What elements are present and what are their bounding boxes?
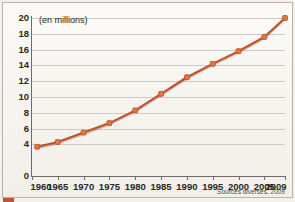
gridline-8: [31, 113, 285, 114]
chart-frame: 2018161412108640 (en millions) 196019651…: [2, 2, 293, 198]
y-axis-line: [31, 16, 32, 177]
y-tick-label-6: 6: [7, 124, 29, 134]
gridline-6: [31, 129, 285, 130]
x-tick-label-1990: 1990: [176, 181, 197, 192]
x-tick-mark-1995: [213, 176, 214, 180]
y-axis-unit-note: (en millions): [39, 15, 88, 25]
x-tick-mark-1965: [58, 176, 59, 180]
x-tick-label-1965: 1965: [47, 181, 68, 192]
page-edge-marker: [3, 198, 14, 202]
x-tick-label-1980: 1980: [125, 181, 146, 192]
y-tick-label-0: 0: [7, 171, 29, 181]
y-tick-label-20: 20: [7, 13, 29, 23]
gridline-4: [31, 144, 285, 145]
plot-area: [31, 18, 285, 176]
chart-screenshot: 2018161412108640 (en millions) 196019651…: [0, 0, 295, 202]
y-tick-label-10: 10: [7, 92, 29, 102]
x-tick-label-1975: 1975: [99, 181, 120, 192]
source-note: Sources diverses, 2009: [217, 188, 285, 195]
y-tick-label-8: 8: [7, 108, 29, 118]
gridline-10: [31, 97, 285, 98]
x-tick-mark-1960: [32, 176, 33, 180]
x-tick-label-1970: 1970: [73, 181, 94, 192]
gridline-12: [31, 81, 285, 82]
x-tick-label-1985: 1985: [151, 181, 172, 192]
x-tick-mark-1970: [84, 176, 85, 180]
x-tick-mark-1975: [109, 176, 110, 180]
x-tick-mark-1990: [187, 176, 188, 180]
gridline-16: [31, 50, 285, 51]
x-tick-mark-2009: [285, 176, 286, 180]
y-tick-label-12: 12: [7, 76, 29, 86]
y-axis-tick-labels: 2018161412108640: [3, 3, 29, 202]
x-axis-line: [31, 176, 286, 177]
y-tick-label-14: 14: [7, 60, 29, 70]
x-tick-mark-2000: [239, 176, 240, 180]
gridline-18: [31, 34, 285, 35]
x-tick-mark-1985: [161, 176, 162, 180]
x-tick-mark-2005: [264, 176, 265, 180]
y-tick-label-4: 4: [7, 139, 29, 149]
y-tick-label-16: 16: [7, 45, 29, 55]
gridline-14: [31, 65, 285, 66]
y-tick-label-18: 18: [7, 29, 29, 39]
x-tick-mark-1980: [135, 176, 136, 180]
